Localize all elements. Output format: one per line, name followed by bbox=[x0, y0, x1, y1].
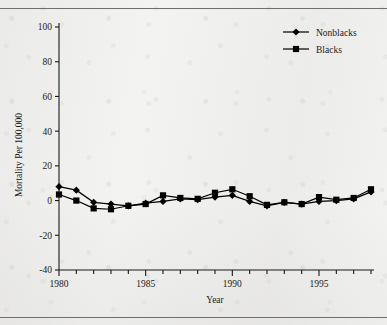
x-tick-label: 1995 bbox=[310, 279, 329, 289]
data-series-group bbox=[55, 183, 374, 212]
data-point-marker bbox=[229, 192, 236, 199]
data-point-marker bbox=[351, 195, 357, 201]
data-point-marker bbox=[177, 195, 183, 201]
data-point-marker bbox=[229, 186, 235, 192]
y-tick-label: 100 bbox=[38, 22, 53, 32]
data-point-marker bbox=[55, 183, 62, 190]
legend-marker-square bbox=[293, 46, 299, 52]
x-axis-title: Year bbox=[206, 295, 224, 305]
y-tick-label: -20 bbox=[39, 231, 52, 241]
x-tick-label: 1980 bbox=[50, 279, 69, 289]
data-point-marker bbox=[160, 192, 166, 198]
y-axis: -40-20020406080100 bbox=[38, 22, 59, 275]
data-point-marker bbox=[281, 199, 287, 205]
chart-legend: NonblacksBlacks bbox=[283, 28, 357, 55]
x-tick-label: 1985 bbox=[136, 279, 155, 289]
data-point-marker bbox=[73, 197, 79, 203]
y-tick-label: 20 bbox=[43, 161, 53, 171]
data-point-marker bbox=[73, 187, 80, 194]
y-tick-label: 60 bbox=[43, 92, 53, 102]
data-point-marker bbox=[195, 196, 201, 202]
x-axis: 1980198519901995 bbox=[50, 270, 375, 289]
y-axis-title: Mortality Per 100,000 bbox=[14, 113, 24, 197]
legend-label: Nonblacks bbox=[316, 28, 357, 38]
legend-item-nonblacks: Nonblacks bbox=[283, 28, 357, 38]
data-point-marker bbox=[316, 194, 322, 200]
data-point-marker bbox=[143, 201, 149, 207]
data-point-marker bbox=[91, 205, 97, 211]
data-point-marker bbox=[212, 190, 218, 196]
legend-marker-diamond bbox=[292, 28, 299, 35]
data-point-marker bbox=[159, 198, 166, 205]
series-nonblacks bbox=[55, 183, 374, 209]
y-tick-label: 0 bbox=[47, 196, 52, 206]
legend-label: Blacks bbox=[316, 45, 342, 55]
y-tick-label: 40 bbox=[43, 127, 53, 137]
data-point-marker bbox=[247, 193, 253, 199]
data-point-marker bbox=[299, 201, 305, 207]
chart-svg: -40-20020406080100 1980198519901995 Nonb… bbox=[0, 0, 387, 325]
data-point-marker bbox=[90, 199, 97, 206]
data-point-marker bbox=[368, 186, 374, 192]
legend-item-blacks: Blacks bbox=[283, 45, 342, 55]
data-point-marker bbox=[264, 202, 270, 208]
data-point-marker bbox=[56, 191, 62, 197]
y-tick-label: 80 bbox=[43, 57, 53, 67]
data-point-marker bbox=[333, 197, 339, 203]
x-tick-label: 1990 bbox=[223, 279, 242, 289]
data-point-marker bbox=[125, 203, 131, 209]
y-tick-label: -40 bbox=[39, 265, 52, 275]
mortality-line-chart: -40-20020406080100 1980198519901995 Nonb… bbox=[0, 0, 387, 325]
data-point-marker bbox=[108, 206, 114, 212]
